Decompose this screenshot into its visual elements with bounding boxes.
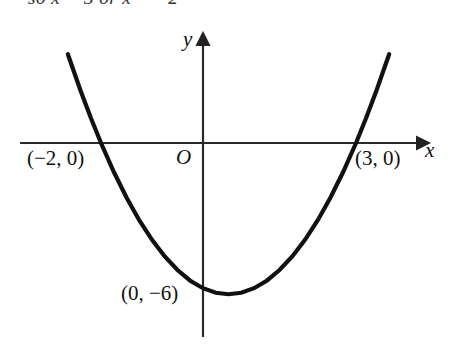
parabola-figure: so x = 3 or x = −2 y x O (−2, 0) (3, 0) …	[0, 0, 454, 348]
right-root-label: (3, 0)	[355, 148, 401, 169]
origin-label: O	[176, 147, 191, 168]
graph-canvas	[0, 0, 454, 348]
left-root-label: (−2, 0)	[27, 148, 84, 169]
parabola-curve	[68, 54, 389, 294]
x-axis-label: x	[425, 140, 434, 161]
y-intercept-label: (0, −6)	[121, 283, 178, 304]
y-axis-label: y	[183, 29, 192, 50]
